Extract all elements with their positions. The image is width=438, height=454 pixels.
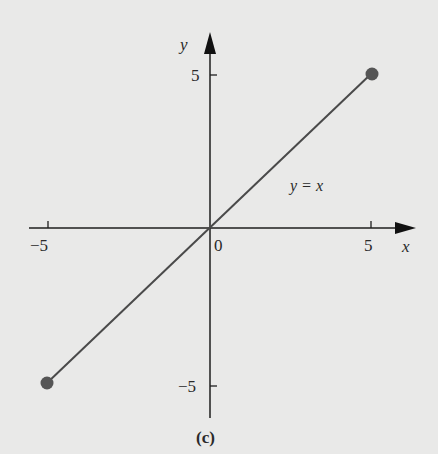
endpoint-dot-lower [41, 377, 54, 390]
y-axis-label: y [178, 35, 188, 54]
y-axis-arrow-icon [204, 32, 216, 54]
figure-caption: (c) [196, 428, 215, 447]
y-tick-label-neg5: −5 [178, 377, 196, 396]
origin-label: 0 [214, 236, 223, 255]
x-tick-label-neg5: −5 [30, 236, 48, 255]
chart-canvas: y x −5 5 5 −5 0 y = x (c) [0, 0, 438, 454]
x-tick-label-pos5: 5 [364, 236, 373, 255]
x-axis-arrow-icon [395, 222, 416, 234]
line-annotation: y = x [288, 177, 323, 195]
endpoint-dot-upper [366, 68, 379, 81]
x-axis-label: x [401, 237, 410, 256]
y-tick-label-pos5: 5 [191, 66, 200, 85]
